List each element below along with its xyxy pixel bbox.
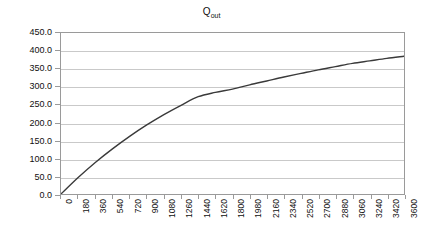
series-line-qout <box>61 33 404 194</box>
chart-title-base: Q <box>203 6 211 17</box>
y-axis-tick-label: 300.0 <box>29 81 52 91</box>
y-axis-tick-label: 50.0 <box>34 172 52 182</box>
x-axis-tick-label: 180 <box>81 199 91 213</box>
x-axis-tick-label: 3240 <box>374 199 384 218</box>
x-axis-tick-label: 1440 <box>202 199 212 218</box>
x-axis-tick-label: 2520 <box>305 199 315 218</box>
x-axis-tick-label: 1620 <box>219 199 229 218</box>
x-axis-tick-label: 540 <box>115 199 125 213</box>
chart-title-subscript: out <box>211 12 221 19</box>
x-axis-tick-label: 900 <box>150 199 160 213</box>
x-axis-tick-label: 1260 <box>184 199 194 218</box>
plot-area <box>60 32 405 195</box>
y-axis-tick-label: 100.0 <box>29 154 52 164</box>
x-axis-tick-label: 2340 <box>288 199 298 218</box>
chart-container: Qout 0.050.0100.0150.0200.0250.0300.0350… <box>0 0 423 240</box>
x-axis-tick-label: 1080 <box>167 199 177 218</box>
x-axis-tick-label: 2160 <box>271 199 281 218</box>
x-axis-labels: 0180360540720900108012601440162018001980… <box>60 199 405 239</box>
y-axis-tick-label: 350.0 <box>29 63 52 73</box>
x-axis-tick-label: 0 <box>64 199 74 204</box>
x-axis-tick-label: 1980 <box>253 199 263 218</box>
y-axis-labels: 0.050.0100.0150.0200.0250.0300.0350.0400… <box>0 32 56 195</box>
y-axis-tick-label: 200.0 <box>29 118 52 128</box>
y-axis-tick-label: 450.0 <box>29 27 52 37</box>
x-axis-tick-label: 360 <box>98 199 108 213</box>
x-axis-tick-label: 720 <box>133 199 143 213</box>
y-axis-tick-label: 0.0 <box>39 190 52 200</box>
x-axis-tick-label: 1800 <box>236 199 246 218</box>
x-axis-tick-label: 3600 <box>409 199 419 218</box>
y-axis-tick-label: 400.0 <box>29 45 52 55</box>
x-axis-tick-label: 3060 <box>357 199 367 218</box>
x-axis-tick <box>405 195 406 199</box>
chart-title: Qout <box>0 6 423 19</box>
x-axis-tick-label: 3420 <box>391 199 401 218</box>
x-axis-tick-label: 2700 <box>322 199 332 218</box>
y-axis-tick-label: 250.0 <box>29 99 52 109</box>
x-axis-tick-label: 2880 <box>340 199 350 218</box>
y-axis-tick-label: 150.0 <box>29 136 52 146</box>
